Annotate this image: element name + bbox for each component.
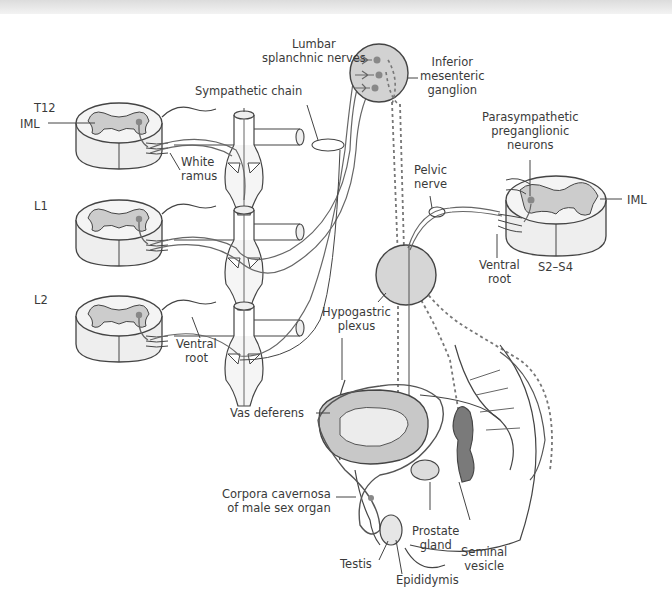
label-parasympathetic-neurons: Parasympatheticpreganglionicneurons: [482, 110, 579, 152]
prostate: [411, 460, 439, 480]
label-pelvic-nerve: Pelvicnerve: [414, 163, 447, 191]
label-lumbar-splanchnic: Lumbarsplanchnic nerves: [262, 37, 366, 65]
label-epididymis: Epididymis: [396, 573, 459, 587]
label-s2-s4: S2–S4: [538, 260, 573, 274]
label-inferior-mesenteric-ganglion: Inferiormesentericganglion: [420, 55, 484, 97]
label-sympathetic-chain: Sympathetic chain: [195, 84, 302, 98]
autonomic-diagram: [0, 0, 672, 596]
label-vas-deferens: Vas deferens: [230, 406, 304, 420]
spinal-cord-s2-s4: [497, 160, 622, 258]
label-t12: T12: [34, 101, 56, 115]
label-white-ramus: Whiteramus: [181, 155, 217, 183]
spinal-cord-l1: [76, 200, 216, 266]
label-l1: L1: [34, 199, 48, 213]
label-iml-left: IML: [20, 117, 40, 131]
label-testis: Testis: [340, 557, 372, 571]
label-iml-right: IML: [627, 193, 647, 207]
seminal-vesicle: [453, 407, 474, 482]
label-seminal-vesicle: Seminalvesicle: [461, 545, 507, 573]
label-ventral-root-left: Ventralroot: [176, 337, 217, 365]
label-ventral-root-right: Ventralroot: [479, 258, 520, 286]
label-l2: L2: [34, 293, 48, 307]
label-prostate-gland: Prostategland: [412, 524, 459, 552]
testis: [380, 515, 402, 545]
sympathetic-chain-ganglion-2: [174, 206, 304, 310]
label-corpora-cavernosa: Corpora cavernosaof male sex organ: [222, 487, 331, 515]
label-hypogastric-plexus: Hypogastricplexus: [322, 305, 391, 333]
